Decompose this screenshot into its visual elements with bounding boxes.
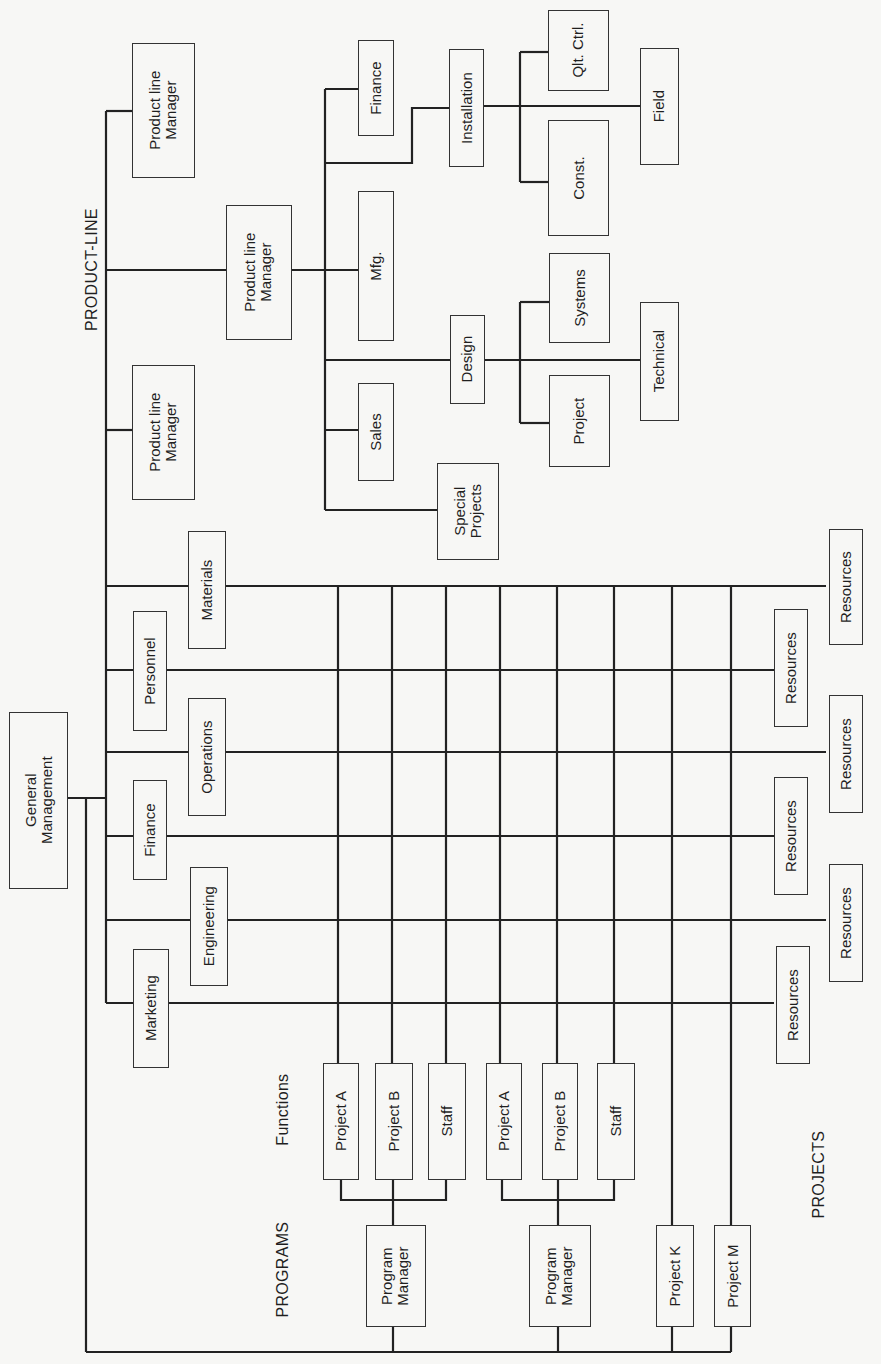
department-design-box: Design [450, 315, 485, 404]
function-marketing-box: Marketing [133, 949, 169, 1068]
product-line-manager-box-3: Product line Manager [132, 365, 195, 500]
design-technical-box: Technical [640, 302, 679, 421]
program1-staff-box: Staff [428, 1063, 466, 1180]
installation-field-box: Field [640, 48, 679, 165]
program2-manager-box: Program Manager [529, 1225, 591, 1327]
general-management-box: General Management [9, 712, 68, 889]
function-personnel-box: Personnel [133, 611, 167, 731]
functions-label: Functions [268, 1060, 298, 1160]
program2-project-a-box: Project A [486, 1063, 522, 1180]
program2-project-b-box: Project B [542, 1063, 578, 1180]
program1-manager-box: Program Manager [366, 1225, 426, 1327]
resources-box-personnel: Resources [774, 609, 808, 727]
project-m-box: Project M [714, 1225, 751, 1327]
resources-box-finance: Resources [774, 777, 808, 895]
installation-construction-box: Const. [548, 120, 609, 236]
program1-project-b-box: Project B [375, 1063, 413, 1180]
installation-quality-control-box: Qlt. Ctrl. [548, 10, 609, 91]
department-mfg-box: Mfg. [358, 191, 394, 341]
project-k-box: Project K [656, 1225, 694, 1327]
function-engineering-box: Engineering [190, 867, 228, 986]
resources-box-marketing: Resources [776, 946, 810, 1064]
design-systems-box: Systems [549, 253, 610, 343]
function-finance-box: Finance [133, 780, 167, 880]
product-line-manager-box-1: Product line Manager [132, 43, 195, 178]
function-materials-box: Materials [188, 531, 226, 649]
programs-label: PROGRAMS [268, 1215, 298, 1325]
design-project-box: Project [549, 375, 610, 467]
resources-box-materials: Resources [829, 529, 863, 645]
department-sales-box: Sales [358, 383, 394, 481]
department-finance-box: Finance [358, 40, 394, 136]
function-operations-box: Operations [188, 698, 226, 816]
product-line-manager-box-2: Product line Manager [226, 205, 292, 340]
resources-box-engineering: Resources [829, 864, 863, 982]
projects-label: PROJECTS [804, 1120, 834, 1230]
department-special-projects-box: Special Projects [437, 463, 499, 560]
resources-box-operations: Resources [829, 695, 863, 813]
product-line-label: PRODUCT-LINE [76, 200, 106, 340]
program2-staff-box: Staff [597, 1063, 635, 1180]
department-installation-box: Installation [449, 49, 484, 167]
program1-project-a-box: Project A [323, 1063, 359, 1180]
